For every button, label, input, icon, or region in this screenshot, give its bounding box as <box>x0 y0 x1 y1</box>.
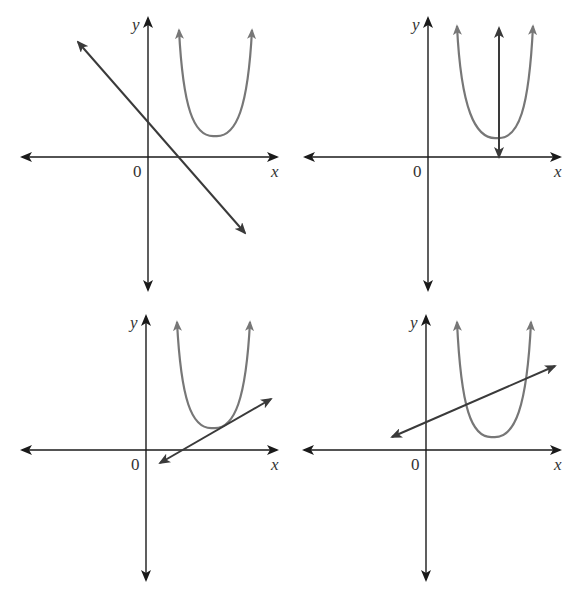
parabola-curve <box>177 322 250 428</box>
origin-label: 0 <box>133 162 142 181</box>
graph-panel-top-left: xy0 <box>22 15 279 290</box>
graph-panel-bottom-left: xy0 <box>22 313 279 580</box>
x-axis-label: x <box>553 455 562 474</box>
y-axis-label: y <box>128 313 138 332</box>
straight-line <box>160 399 271 463</box>
origin-label: 0 <box>131 455 140 474</box>
origin-label: 0 <box>413 162 422 181</box>
x-axis-label: x <box>553 162 562 181</box>
parabola-curve <box>457 26 533 138</box>
x-axis-label: x <box>270 162 279 181</box>
parabola-curve <box>457 322 531 437</box>
y-axis-label: y <box>410 15 420 34</box>
y-axis-label: y <box>408 313 418 332</box>
graph-panel-top-right: xy0 <box>305 15 562 290</box>
parabola-curve <box>179 30 252 136</box>
y-axis-label: y <box>130 15 140 34</box>
origin-label: 0 <box>411 455 420 474</box>
x-axis-label: x <box>270 455 279 474</box>
straight-line <box>78 42 245 233</box>
graph-panel-bottom-right: xy0 <box>304 313 562 580</box>
figure-canvas: xy0xy0xy0xy0 <box>0 0 567 595</box>
